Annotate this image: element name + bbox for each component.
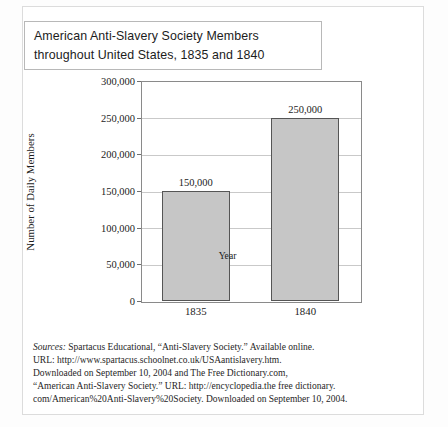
y-axis-tick-mark xyxy=(137,154,141,155)
y-axis-tick-label: 250,000 xyxy=(51,112,135,123)
sources-line-5: com/American%20Anti-Slavery%20Society. D… xyxy=(33,393,415,406)
y-axis-tick-label: 150,000 xyxy=(51,186,135,197)
sources-line-1-rest: Spartacus Educational, “Anti-Slavery Soc… xyxy=(66,342,315,352)
y-axis-tick-mark xyxy=(137,228,141,229)
y-axis-tick-mark xyxy=(137,264,141,265)
y-axis-title-label: Number of Daily Members xyxy=(24,133,36,250)
sources-block: Sources: Spartacus Educational, “Anti-Sl… xyxy=(33,341,415,406)
chart-title-line-1: American Anti-Slavery Society Members xyxy=(34,27,321,46)
bar-value-label: 150,000 xyxy=(148,177,244,188)
y-axis-tick-label: 300,000 xyxy=(51,76,135,87)
sources-line-2: URL: http://www.spartacus.schoolnet.co.u… xyxy=(33,354,415,367)
sources-lead: Sources: xyxy=(33,342,66,352)
y-axis-tick-label: 0 xyxy=(51,296,135,307)
y-axis-tick-label: 100,000 xyxy=(51,222,135,233)
sources-line-3: Downloaded on September 10, 2004 and The… xyxy=(33,367,415,380)
x-axis-tick-label: 1835 xyxy=(141,305,251,317)
y-axis-tick-mark xyxy=(137,301,141,302)
sources-line-4: “American Anti-Slavery Society.” URL: ht… xyxy=(33,380,415,393)
bar-1840[interactable] xyxy=(271,118,339,301)
x-axis-title: Year xyxy=(117,250,338,261)
chart-title-box: American Anti-Slavery Society Members th… xyxy=(24,21,322,70)
y-axis-tick-mark xyxy=(137,191,141,192)
figure-page: American Anti-Slavery Society Members th… xyxy=(0,0,448,427)
chart-title-line-2: throughout United States, 1835 and 1840 xyxy=(34,46,321,65)
bar-value-label: 250,000 xyxy=(257,104,353,115)
sources-line-1: Sources: Spartacus Educational, “Anti-Sl… xyxy=(33,341,415,354)
y-axis-tick-mark xyxy=(137,118,141,119)
bar-1835[interactable] xyxy=(162,191,230,301)
y-axis-tick-label: 200,000 xyxy=(51,149,135,160)
y-axis-tick-mark xyxy=(137,81,141,82)
x-axis-tick-label: 1840 xyxy=(251,305,361,317)
y-axis-title: Number of Daily Members xyxy=(22,81,38,303)
bar-chart: Number of Daily Members 050,000100,00015… xyxy=(24,72,364,334)
